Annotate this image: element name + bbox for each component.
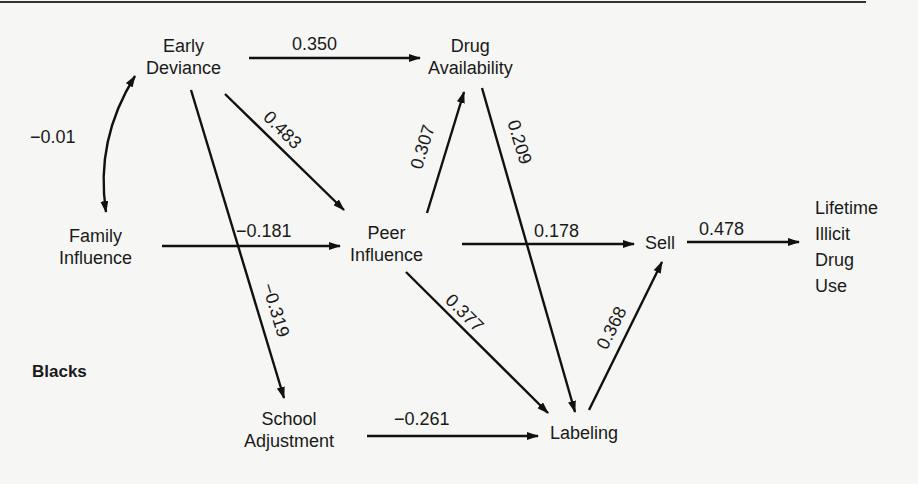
node-label: Adjustment (244, 430, 334, 452)
node-label: Illicit (815, 221, 878, 247)
node-sell: Sell (645, 232, 675, 254)
coef-early-drug: 0.350 (292, 34, 337, 54)
node-label: Lifetime (815, 195, 878, 221)
node-label: Influence (59, 247, 132, 269)
coef-peer-sell: 0.178 (534, 221, 579, 241)
node-early-deviance: Early Deviance (146, 35, 221, 79)
node-lifetime-illicit-drug-use: Lifetime Illicit Drug Use (815, 195, 878, 299)
arrow-early-peer (225, 94, 344, 210)
node-labeling: Labeling (550, 422, 618, 444)
arrow-peer-drug (427, 92, 464, 213)
node-label: Drug (815, 247, 878, 273)
node-label: Deviance (146, 57, 221, 79)
node-label: Labeling (550, 422, 618, 444)
arrow-early-school (191, 90, 284, 398)
arrow-early-family (104, 76, 135, 212)
coef-early-family: −0.01 (30, 127, 76, 147)
node-family-influence: Family Influence (59, 225, 132, 269)
coef-family-peer: −0.181 (236, 221, 292, 241)
node-school-adjustment: School Adjustment (244, 408, 334, 452)
group-label: Blacks (32, 362, 87, 382)
node-label: Use (815, 273, 878, 299)
node-label: Drug (428, 35, 513, 57)
node-label: Family (59, 225, 132, 247)
node-label: Peer (350, 222, 423, 244)
coef-school-labeling: −0.261 (394, 409, 450, 429)
coef-sell-lifetime: 0.478 (699, 219, 744, 239)
node-label: School (244, 408, 334, 430)
node-drug-availability: Drug Availability (428, 35, 513, 79)
node-label: Influence (350, 244, 423, 266)
node-label: Availability (428, 57, 513, 79)
node-peer-influence: Peer Influence (350, 222, 423, 266)
arrow-peer-labeling (406, 272, 548, 413)
node-label: Early (146, 35, 221, 57)
node-label: Sell (645, 232, 675, 254)
